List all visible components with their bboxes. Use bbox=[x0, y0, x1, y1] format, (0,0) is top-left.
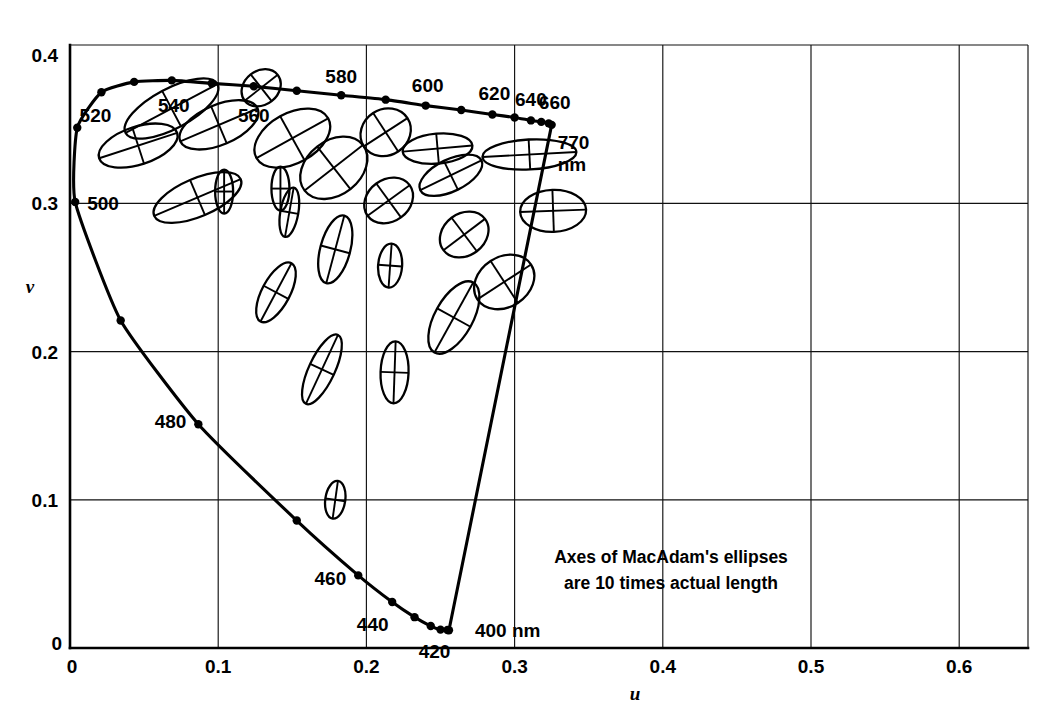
ellipse-minor-axis bbox=[452, 218, 477, 252]
ellipse-minor-axis bbox=[552, 190, 553, 232]
wavelength-label-500: 500 bbox=[87, 193, 119, 214]
ellipse-minor-axis bbox=[491, 261, 518, 303]
ellipse-minor-axis bbox=[132, 128, 144, 164]
macadam-ellipse bbox=[413, 146, 488, 205]
x-tick-label: 0.3 bbox=[501, 656, 527, 677]
ellipse-minor-axis bbox=[310, 364, 334, 375]
wavelength-label-420: 420 bbox=[419, 641, 451, 662]
x-tick-label: 0.4 bbox=[650, 656, 677, 677]
ellipse-minor-axis bbox=[373, 113, 398, 152]
macadam-ellipse bbox=[401, 131, 473, 167]
ellipse-minor-axis bbox=[280, 116, 304, 160]
ellipse-minor-axis bbox=[381, 372, 409, 373]
annotation-line-1: Axes of MacAdam's ellipses bbox=[554, 547, 788, 567]
ellipse-minor-axis bbox=[264, 286, 289, 299]
locus-point-marker bbox=[354, 571, 362, 579]
x-tick-label: 0.2 bbox=[353, 656, 379, 677]
wavelength-label-600: 600 bbox=[412, 75, 444, 96]
ellipse-minor-axis bbox=[437, 308, 470, 326]
y-origin-label: 0 bbox=[51, 633, 62, 654]
macadam-ellipse bbox=[351, 99, 420, 166]
locus-point-marker bbox=[388, 598, 396, 606]
annotation-block: Axes of MacAdam's ellipses are 10 times … bbox=[554, 547, 788, 593]
wavelength-label-520: 520 bbox=[80, 105, 112, 126]
ellipse-minor-axis bbox=[436, 134, 439, 164]
ellipse-minor-axis bbox=[190, 180, 205, 215]
y-tick-label: 0.1 bbox=[32, 490, 59, 511]
wavelength-label-440: 440 bbox=[357, 614, 389, 635]
ellipse-minor-axis bbox=[211, 106, 227, 143]
locus-point-marker bbox=[436, 625, 444, 633]
y-tick-label: 0.3 bbox=[32, 193, 58, 214]
y-axis-title: v bbox=[26, 276, 35, 297]
macadam-ellipse bbox=[271, 167, 289, 211]
y-tick-label: 0.4 bbox=[32, 45, 59, 66]
macadam-ellipse bbox=[377, 243, 404, 289]
locus-point-marker bbox=[427, 622, 435, 630]
locus-point-marker bbox=[194, 420, 202, 428]
ellipse-minor-axis bbox=[378, 265, 402, 267]
macadam-ellipse bbox=[215, 170, 233, 214]
wavelength-label-660: 660 bbox=[539, 92, 571, 113]
locus-point-marker bbox=[130, 78, 138, 86]
locus-point-marker bbox=[293, 87, 301, 95]
wavelength-label-770: 770 bbox=[558, 132, 590, 153]
wavelength-label-540: 540 bbox=[158, 95, 190, 116]
chart-svg: 400 nm4204404604805005205405605806006206… bbox=[0, 0, 1060, 719]
locus-point-marker bbox=[97, 88, 105, 96]
locus-point-marker bbox=[337, 91, 345, 99]
ellipse-minor-axis bbox=[529, 140, 531, 170]
x-tick-label: 0.5 bbox=[798, 656, 825, 677]
ellipse-minor-axis bbox=[317, 147, 350, 190]
locus-point-marker bbox=[421, 101, 429, 109]
macadam-ellipse bbox=[379, 341, 409, 404]
locus-point-marker bbox=[410, 613, 418, 621]
locus-point-marker bbox=[510, 113, 518, 121]
wavelength-label-560: 560 bbox=[238, 105, 270, 126]
y-tick-label: 0.2 bbox=[32, 342, 58, 363]
locus-point-marker bbox=[116, 316, 124, 324]
locus-point-marker bbox=[293, 516, 301, 524]
macadam-ellipse bbox=[464, 244, 545, 321]
locus-point-marker bbox=[250, 82, 258, 90]
locus-point-marker bbox=[547, 121, 555, 129]
x-axis-title: u bbox=[630, 683, 641, 704]
wavelength-label-400: 400 nm bbox=[475, 620, 540, 641]
wavelength-label-620: 620 bbox=[479, 83, 511, 104]
locus-point-marker bbox=[527, 116, 535, 124]
macadam-ellipse bbox=[418, 273, 490, 361]
annotation-line-2: are 10 times actual length bbox=[564, 573, 778, 593]
x-tick-label: 0.1 bbox=[205, 656, 232, 677]
macadam-ellipses-group bbox=[93, 61, 587, 520]
wavelength-label-460: 460 bbox=[315, 568, 347, 589]
locus-point-marker bbox=[457, 106, 465, 114]
locus-point-marker bbox=[537, 118, 545, 126]
line-of-purples bbox=[449, 125, 552, 630]
wavelength-label-580: 580 bbox=[325, 66, 357, 87]
ellipse-minor-axis bbox=[444, 161, 458, 190]
macadam-ellipse bbox=[355, 168, 422, 233]
locus-point-marker bbox=[168, 76, 176, 84]
locus-point-marker bbox=[488, 110, 496, 118]
wavelength-label-480: 480 bbox=[155, 411, 187, 432]
axis-titles: u v bbox=[26, 276, 641, 704]
wavelength-unit-770: nm bbox=[558, 154, 587, 175]
tick-labels: 0.10.20.30.40.50.60.10.20.30.400 bbox=[32, 45, 973, 677]
locus-point-marker bbox=[381, 95, 389, 103]
macadam-ellipse bbox=[294, 329, 350, 409]
x-tick-label: 0.6 bbox=[946, 656, 972, 677]
macadam-ellipse bbox=[431, 202, 498, 267]
macadam-ellipse bbox=[312, 212, 359, 287]
ellipse-minor-axis bbox=[376, 183, 401, 217]
x-origin-label: 0 bbox=[67, 656, 78, 677]
locus-point-marker bbox=[71, 198, 79, 206]
chromaticity-diagram-figure: 400 nm4204404604805005205405605806006206… bbox=[0, 0, 1060, 719]
macadam-ellipse bbox=[248, 257, 304, 328]
locus-point-marker bbox=[207, 79, 215, 87]
